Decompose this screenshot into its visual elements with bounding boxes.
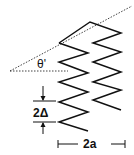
pitch-lower-arrowhead [41,122,46,127]
width-dimension: 2a [58,137,125,151]
pitch-dimension: 2Δ [33,86,56,134]
pitch-upper-arrowhead [41,96,46,101]
spring-geometry-diagram: θ' 2Δ 2a [0,0,134,155]
angle-label: θ' [37,57,46,71]
width-label: 2a [83,137,97,151]
left-spring [59,43,88,131]
inclined-dotted-line [10,6,132,71]
pitch-label: 2Δ [33,106,49,120]
